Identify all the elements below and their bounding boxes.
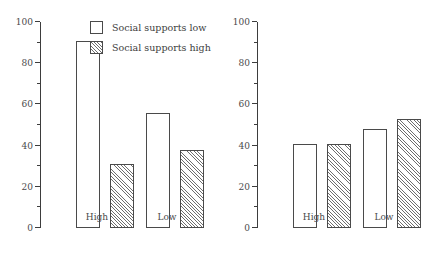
y-tick-minor [254,124,257,125]
y-tick-major [252,21,257,22]
y-tick-major [35,21,40,22]
y-tick-label: 20 [22,182,33,191]
y-tick-label: 20 [239,182,250,191]
y-tick-minor [254,206,257,207]
chart-panel-right: 020406080100 HighLow [217,0,434,263]
y-tick-label: 0 [27,224,33,233]
y-tick-minor [254,83,257,84]
bar-chart-figure: 020406080100 HighLow Social supports low… [0,0,435,263]
chart-legend: Social supports low Social supports high [90,17,215,57]
y-tick-label: 40 [239,141,250,150]
y-tick-major [252,103,257,104]
y-tick-minor [254,165,257,166]
y-tick-major [35,227,40,228]
bar [327,144,351,228]
y-tick-minor [37,83,40,84]
legend-swatch-open-square [90,21,103,34]
y-tick-major [35,103,40,104]
y-tick-minor [37,124,40,125]
x-axis-category-label: Low [374,212,393,222]
y-tick-major [252,186,257,187]
y-tick-major [252,62,257,63]
y-tick-label: 60 [22,100,33,109]
y-tick-minor [254,42,257,43]
y-tick-major [252,145,257,146]
y-tick-label: 80 [22,59,33,68]
x-axis-category-label: High [86,212,108,222]
bar [180,150,204,228]
y-tick-minor [37,42,40,43]
plot-area-right: 020406080100 [257,22,427,228]
legend-label-social-supports-high: Social supports high [112,42,211,53]
y-tick-label: 80 [239,59,250,68]
bar-group-container-right [258,22,427,228]
y-tick-label: 0 [244,224,250,233]
y-tick-major [35,145,40,146]
legend-label-social-supports-low: Social supports low [112,22,206,33]
y-tick-major [35,62,40,63]
bar [146,113,170,228]
legend-entry-social-supports-high: Social supports high [90,37,215,57]
legend-swatch-hatched-square [90,41,103,54]
y-tick-label: 60 [239,100,250,109]
y-tick-label: 100 [233,18,250,27]
chart-panel-left: 020406080100 HighLow Social supports low… [0,0,217,263]
bar [110,164,134,228]
legend-entry-social-supports-low: Social supports low [90,17,215,37]
y-tick-major [252,227,257,228]
y-tick-major [35,186,40,187]
bar [76,41,100,228]
x-axis-category-label: High [303,212,325,222]
bar [397,119,421,228]
y-tick-minor [37,165,40,166]
y-tick-label: 40 [22,141,33,150]
y-tick-label: 100 [16,18,33,27]
x-axis-category-label: Low [157,212,176,222]
y-tick-minor [37,206,40,207]
